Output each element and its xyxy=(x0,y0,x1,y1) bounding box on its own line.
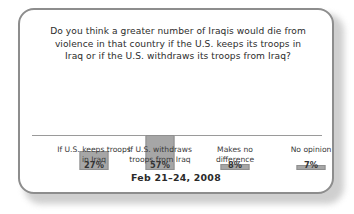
poll-date-label: Feb 21–24, 2008 xyxy=(20,172,332,183)
x-axis-label-line: Makes no xyxy=(194,145,276,155)
x-axis-label-line: difference xyxy=(194,155,276,165)
bar-value-no-opinion: 7% xyxy=(273,160,349,170)
poll-result-card: Do you think a greater number of Iraqis … xyxy=(18,8,334,194)
x-axis-label-line: No opinion xyxy=(270,145,352,155)
x-axis-label-line: If U.S. withdraws xyxy=(119,145,201,155)
x-axis-label-line: troops from Iraq xyxy=(119,155,201,165)
bar-group-no-opinion: 7% xyxy=(273,90,349,170)
x-axis-label-no-opinion: No opinion xyxy=(270,145,352,155)
bar-chart: 27% 57% 8% 7% If U.S. keeps troops in xyxy=(20,10,332,192)
x-axis-label-makes-no-difference: Makes no difference xyxy=(194,145,276,165)
x-axis-label-withdraws-troops: If U.S. withdraws troops from Iraq xyxy=(119,145,201,165)
